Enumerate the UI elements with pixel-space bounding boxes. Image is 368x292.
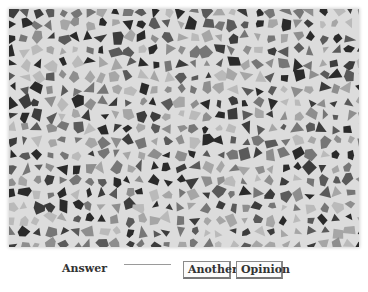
answer-field[interactable] xyxy=(124,264,171,265)
mosaic-tile xyxy=(46,72,55,81)
mosaic-tile xyxy=(230,136,236,144)
mosaic-tile xyxy=(282,18,292,31)
mosaic-image xyxy=(9,9,359,247)
mosaic-tile xyxy=(177,216,184,226)
mosaic-tile xyxy=(46,86,53,95)
mosaic-tile xyxy=(333,229,344,239)
opinion-button[interactable]: Opinion xyxy=(236,261,283,279)
another-button[interactable]: Another xyxy=(183,261,231,279)
answer-label: Answer xyxy=(62,262,107,275)
mosaic-svg xyxy=(9,9,359,247)
mosaic-tile xyxy=(123,9,134,16)
mosaic-tile xyxy=(343,226,356,234)
mosaic-tile xyxy=(254,47,263,54)
